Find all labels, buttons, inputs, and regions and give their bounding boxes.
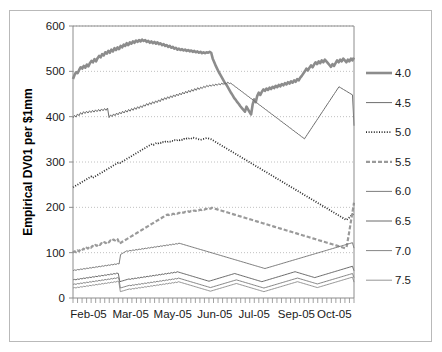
y-axis-title-text: Empirical DV01 per $1mm — [21, 88, 35, 235]
legend-label-5.0: 5.0 — [395, 126, 411, 138]
series-lines — [73, 40, 354, 292]
legend-label-7.5: 7.5 — [395, 274, 411, 286]
legend-label-4.5: 4.5 — [395, 97, 411, 109]
chart-svg: 0100200300400500600 Feb-05Mar-05May-05Ju… — [10, 11, 431, 341]
legend-label-5.5: 5.5 — [395, 156, 411, 168]
y-tick-label: 500 — [46, 65, 65, 77]
y-tick-label: 0 — [59, 292, 65, 304]
legend-label-7.0: 7.0 — [395, 245, 411, 257]
y-tick-label: 600 — [46, 20, 65, 32]
series-line-6.0 — [73, 243, 354, 271]
legend-label-6.0: 6.0 — [395, 185, 411, 197]
legend-label-4.0: 4.0 — [395, 67, 411, 79]
series-line-4.5 — [73, 82, 354, 139]
legend: 4.04.55.05.56.06.57.07.5 — [366, 67, 411, 286]
chart-frame: 0100200300400500600 Feb-05Mar-05May-05Ju… — [9, 10, 432, 342]
series-line-7.5 — [73, 277, 354, 292]
y-tick-label: 400 — [46, 111, 65, 123]
series-line-5.5 — [73, 203, 354, 253]
x-tick-labels: Feb-05Mar-05May-05Jun-05Jul-05Sep-05Oct-… — [70, 308, 351, 320]
x-tick-label: Jul-05 — [239, 308, 270, 320]
legend-label-6.5: 6.5 — [395, 215, 411, 227]
x-tick-label: Oct-05 — [317, 308, 352, 320]
y-tick-label: 300 — [46, 156, 65, 168]
x-tick-label: Mar-05 — [112, 308, 148, 320]
series-line-6.5 — [73, 266, 354, 281]
x-tick-label: May-05 — [154, 308, 192, 320]
x-tick-label: Feb-05 — [70, 308, 106, 320]
y-tick-label: 200 — [46, 201, 65, 213]
y-tick-labels: 0100200300400500600 — [46, 20, 65, 304]
y-tick-label: 100 — [46, 247, 65, 259]
series-line-4.0 — [73, 40, 354, 115]
x-tick-label: Sep-05 — [278, 308, 315, 320]
x-tick-label: Jun-05 — [197, 308, 232, 320]
y-axis-title: Empirical DV01 per $1mm — [21, 88, 35, 235]
